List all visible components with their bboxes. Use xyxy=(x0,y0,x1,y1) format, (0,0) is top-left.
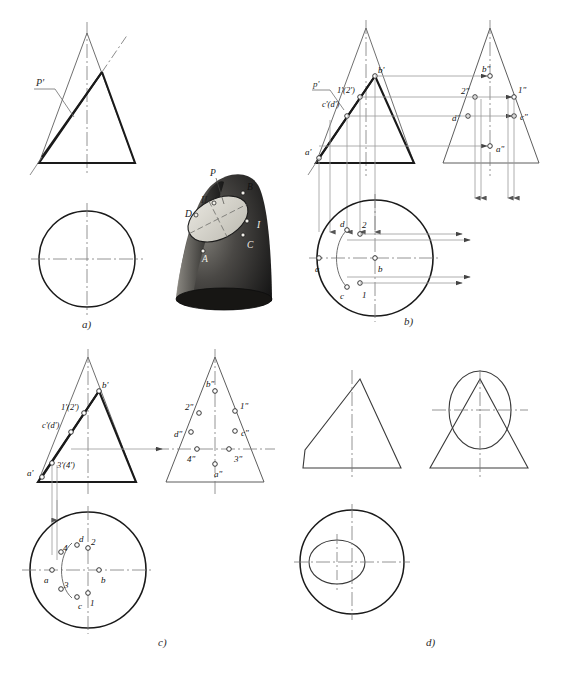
panel-c-point-a-dprime xyxy=(213,462,218,467)
panel-c-point-2-dprime xyxy=(197,411,202,416)
panel-c-plan-label-b: b xyxy=(101,575,106,585)
panel-c-label-12-prime: 1'(2') xyxy=(61,402,79,412)
panel-c-plan-label-c: c xyxy=(78,601,82,611)
panel-c-label-a-dprime: a" xyxy=(214,469,223,479)
panel-a-pictorial-cone: P B D A C I II xyxy=(176,168,272,310)
panel-b-side-outline xyxy=(443,28,539,163)
panel-c-label-34-prime: 3'(4') xyxy=(56,460,75,470)
panel-b-side-view: b" 2" 1" d" c" a" xyxy=(443,20,539,176)
panel-c-plan-point-2 xyxy=(86,546,91,551)
panel-b-label-p-prime: p' xyxy=(312,79,321,89)
pictorial-point-C xyxy=(241,233,245,237)
panel-c-plan-label-3: 3 xyxy=(63,580,69,590)
label-pictorial-II: II xyxy=(200,195,208,205)
panel-b-plan-point-d xyxy=(345,228,350,233)
panel-b-point-1-dprime xyxy=(512,95,517,100)
panel-c-point-a-prime xyxy=(40,475,45,480)
caption-panel-b: b) xyxy=(404,315,413,327)
panel-b-plan-point-b xyxy=(373,256,378,261)
panel-c-plan-label-d: d xyxy=(79,534,84,544)
panel-b-plan-view: a b c d 1 2 xyxy=(309,194,470,322)
panel-a: P' xyxy=(30,22,272,315)
panel-c-point-34-prime xyxy=(50,461,55,466)
panel-c-point-c-dprime xyxy=(233,429,238,434)
panel-b-label-c-dprime: c" xyxy=(520,112,528,122)
cut-plane-extension xyxy=(102,34,128,72)
label-pictorial-B: B xyxy=(247,182,253,192)
panel-c-label-d-dprime: d" xyxy=(174,429,183,439)
panel-c-plan-point-b xyxy=(97,568,102,573)
panel-b-label-d-dprime: d" xyxy=(452,113,461,123)
panel-b-label-a-dprime: a" xyxy=(496,144,505,154)
panel-b-plan-label-a: a xyxy=(315,264,320,274)
panel-c-label-1-dprime: 1" xyxy=(240,401,249,411)
panel-c-label-a-prime: a' xyxy=(27,468,35,478)
panel-d xyxy=(294,370,528,620)
panel-c-point-b-prime xyxy=(97,389,102,394)
panel-b-point-a-dprime xyxy=(488,144,493,149)
cone-base-ellipse xyxy=(176,288,272,310)
pictorial-point-B xyxy=(241,191,245,195)
panel-b-point-b-dprime xyxy=(488,74,493,79)
panel-c-label-4-dprime: 4" xyxy=(187,454,196,464)
panel-c-point-b-dprime xyxy=(213,389,218,394)
panel-c-plan-point-1 xyxy=(86,591,91,596)
panel-b-cut-ext xyxy=(308,158,319,175)
panel-c-plan-label-4: 4 xyxy=(63,543,68,553)
panel-b-side-down-lines xyxy=(475,99,514,198)
panel-b-plan-label-1: 1 xyxy=(362,290,367,300)
label-pictorial-D: D xyxy=(184,209,192,219)
panel-c-plan-label-1: 1 xyxy=(90,598,95,608)
drawing-canvas: P' xyxy=(0,0,567,673)
panel-c-point-1-dprime xyxy=(233,409,238,414)
panel-c-plan-point-3 xyxy=(59,587,64,592)
panel-c-plan-view: a b c d 1 2 3 4 xyxy=(22,506,154,634)
panel-c-point-3-dprime xyxy=(227,447,232,452)
panel-c-truncated-outline xyxy=(38,391,136,482)
panel-b-plan-label-c: c xyxy=(340,291,344,301)
panel-c-front-view: b' 1'(2') c'(d') 3'(4') a' xyxy=(27,349,136,494)
panel-b: p' b' 1'(2') c'(d') a' b" 2" 1" d" c" xyxy=(305,20,539,322)
panel-c-label-b-dprime: b" xyxy=(206,379,215,389)
panel-c: b' 1'(2') c'(d') 3'(4') a' b" 2" 1" d" c… xyxy=(22,349,275,634)
panel-c-plan-label-2: 2 xyxy=(91,537,96,547)
caption-panel-c: c) xyxy=(158,636,167,648)
label-pictorial-A: A xyxy=(201,254,208,264)
panel-c-point-d-dprime xyxy=(189,430,194,435)
panel-a-plan-view xyxy=(31,203,143,315)
panel-b-label-2-dprime: 2" xyxy=(461,86,470,96)
panel-a-front-view: P' xyxy=(30,22,135,175)
panel-c-plan-point-a xyxy=(50,568,55,573)
panel-b-plan-point-c xyxy=(345,285,350,290)
pictorial-point-II xyxy=(212,201,216,205)
panel-c-point-12-prime xyxy=(82,411,87,416)
cut-plane-extension-lower xyxy=(30,157,42,175)
panel-c-label-2-dprime: 2" xyxy=(185,402,194,412)
panel-c-plan-point-c xyxy=(75,595,80,600)
panel-b-label-cd-prime: c'(d') xyxy=(322,99,339,109)
caption-panel-a: a) xyxy=(82,318,91,330)
panel-b-plan-label-b: b xyxy=(378,264,383,274)
panel-b-plan-transfer-arrows xyxy=(347,234,470,283)
panel-c-vertical-projections xyxy=(52,465,57,560)
pictorial-point-A xyxy=(201,249,205,253)
panel-c-point-4-dprime xyxy=(195,447,200,452)
panel-b-label-12-prime: 1'(2') xyxy=(337,85,355,95)
label-pictorial-C: C xyxy=(247,240,254,250)
panel-b-label-a-prime: a' xyxy=(305,147,313,157)
pictorial-point-I xyxy=(245,219,249,223)
panel-b-plan-point-a xyxy=(317,256,322,261)
panel-c-label-3-dprime: 3" xyxy=(233,454,243,464)
panel-b-plan-label-2: 2 xyxy=(362,220,367,230)
panel-b-label-1-dprime: 1" xyxy=(518,85,527,95)
caption-panel-d: d) xyxy=(426,636,435,648)
panel-d-plan-view xyxy=(294,504,410,620)
panel-c-plan-label-a: a xyxy=(44,575,49,585)
panel-d-side-outline xyxy=(430,379,528,468)
panel-c-side-view: b" 2" 1" d" c" 4" 3" a" xyxy=(155,349,275,494)
label-pictorial-P: P xyxy=(209,168,216,178)
label-p-prime: P' xyxy=(35,77,45,88)
panel-c-label-c-dprime: c" xyxy=(241,428,249,438)
panel-b-label-b-dprime: b" xyxy=(482,64,491,74)
pictorial-point-D xyxy=(194,213,198,217)
